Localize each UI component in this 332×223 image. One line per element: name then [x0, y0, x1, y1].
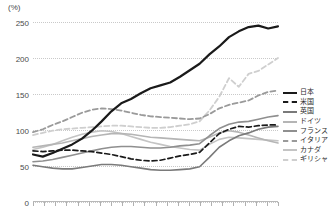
- x-axis-tick: [178, 202, 179, 206]
- y-axis-tick-label-100: 100: [16, 127, 29, 136]
- legend-label: イタリア: [300, 136, 328, 145]
- legend-item-日本[interactable]: 日本: [283, 88, 332, 98]
- x-axis-tick: [189, 202, 190, 206]
- legend-item-ギリシャ[interactable]: ギリシャ: [283, 155, 332, 165]
- y-axis-tick-label-200: 200: [16, 55, 29, 64]
- x-axis-tick: [233, 202, 234, 206]
- x-axis-tick: [156, 202, 157, 206]
- x-axis-tick: [256, 202, 257, 206]
- plot-area: 050100150200250: [33, 22, 278, 202]
- legend-item-米国[interactable]: 米国: [283, 98, 332, 108]
- x-axis-tick: [66, 202, 67, 206]
- x-axis-tick: [267, 202, 268, 206]
- x-axis-tick: [144, 202, 145, 206]
- x-axis-tick: [122, 202, 123, 206]
- legend-label: カナダ: [300, 146, 321, 155]
- legend-swatch-icon: [283, 149, 297, 151]
- legend-item-英国[interactable]: 英国: [283, 107, 332, 117]
- legend-swatch-icon: [283, 92, 297, 94]
- x-axis-tick: [167, 202, 168, 206]
- x-axis-tick: [111, 202, 112, 206]
- series-lines-group: [33, 22, 278, 202]
- legend-label: 米国: [300, 98, 314, 107]
- x-axis-tick: [278, 202, 279, 206]
- legend-item-イタリア[interactable]: イタリア: [283, 136, 332, 146]
- legend-swatch-icon: [283, 140, 297, 142]
- x-axis-tick: [33, 202, 34, 206]
- y-axis-tick-label-150: 150: [16, 91, 29, 100]
- x-axis-tick: [245, 202, 246, 206]
- series-line-ギリシャ: [33, 58, 278, 135]
- x-axis-tick: [44, 202, 45, 206]
- y-axis-tick-label-50: 50: [20, 163, 29, 172]
- x-axis-tick: [78, 202, 79, 206]
- debt-ratio-line-chart: (%) 050100150200250 日本米国英国ドイツフランスイタリアカナダ…: [0, 0, 332, 223]
- x-axis-tick: [222, 202, 223, 206]
- x-axis-tick: [55, 202, 56, 206]
- legend-swatch-icon: [283, 130, 297, 132]
- x-axis-tick: [200, 202, 201, 206]
- x-axis-tick: [211, 202, 212, 206]
- legend-label: フランス: [300, 127, 328, 136]
- legend-label: ドイツ: [300, 117, 321, 126]
- x-axis-tick: [100, 202, 101, 206]
- legend-item-ドイツ[interactable]: ドイツ: [283, 117, 332, 127]
- legend-label: 日本: [300, 88, 314, 97]
- legend-item-フランス[interactable]: フランス: [283, 126, 332, 136]
- legend-label: ギリシャ: [300, 155, 328, 164]
- x-axis-tick: [133, 202, 134, 206]
- legend-item-カナダ[interactable]: カナダ: [283, 146, 332, 156]
- chart-legend: 日本米国英国ドイツフランスイタリアカナダギリシャ: [283, 88, 332, 165]
- legend-swatch-icon: [283, 101, 297, 103]
- x-axis-tick: [89, 202, 90, 206]
- legend-swatch-icon: [283, 121, 297, 123]
- legend-swatch-icon: [283, 159, 297, 161]
- y-axis-tick-label-250: 250: [16, 19, 29, 28]
- y-axis-unit-label: (%): [8, 3, 20, 12]
- legend-label: 英国: [300, 107, 314, 116]
- legend-swatch-icon: [283, 111, 297, 113]
- y-axis-tick-label-0: 0: [25, 199, 29, 208]
